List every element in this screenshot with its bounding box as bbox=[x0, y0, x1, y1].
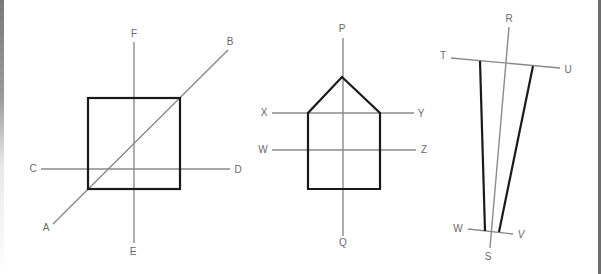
label-q: Q bbox=[339, 237, 347, 248]
tapered-left-leg bbox=[480, 61, 485, 231]
label-s: S bbox=[485, 251, 492, 262]
figure-square: A B C D E F bbox=[29, 28, 241, 257]
label-e: E bbox=[130, 246, 137, 257]
label-r: R bbox=[505, 13, 512, 24]
label-t: T bbox=[440, 50, 446, 61]
line-r-s bbox=[490, 27, 509, 248]
label-a: A bbox=[43, 222, 50, 233]
label-x: X bbox=[261, 107, 268, 118]
label-c: C bbox=[29, 163, 36, 174]
label-d: D bbox=[234, 164, 241, 175]
label-w: W bbox=[258, 144, 268, 155]
label-v: V bbox=[518, 229, 526, 240]
label-b: B bbox=[227, 36, 234, 47]
label-p: P bbox=[339, 23, 346, 34]
line-w-v bbox=[468, 229, 513, 234]
label-u: U bbox=[564, 64, 571, 75]
label-f: F bbox=[131, 28, 137, 39]
figure-pentagon: P Q X Y W Z bbox=[258, 23, 427, 248]
pentagon-shape bbox=[308, 77, 380, 189]
symmetry-diagram: A B C D E F P Q X Y W Z R S T U W V bbox=[0, 0, 602, 274]
label-w2: W bbox=[453, 223, 463, 234]
label-z: Z bbox=[421, 144, 427, 155]
line-a-b bbox=[53, 50, 228, 224]
figure-tapered: R S T U W V bbox=[440, 13, 572, 262]
label-y: Y bbox=[418, 108, 425, 119]
